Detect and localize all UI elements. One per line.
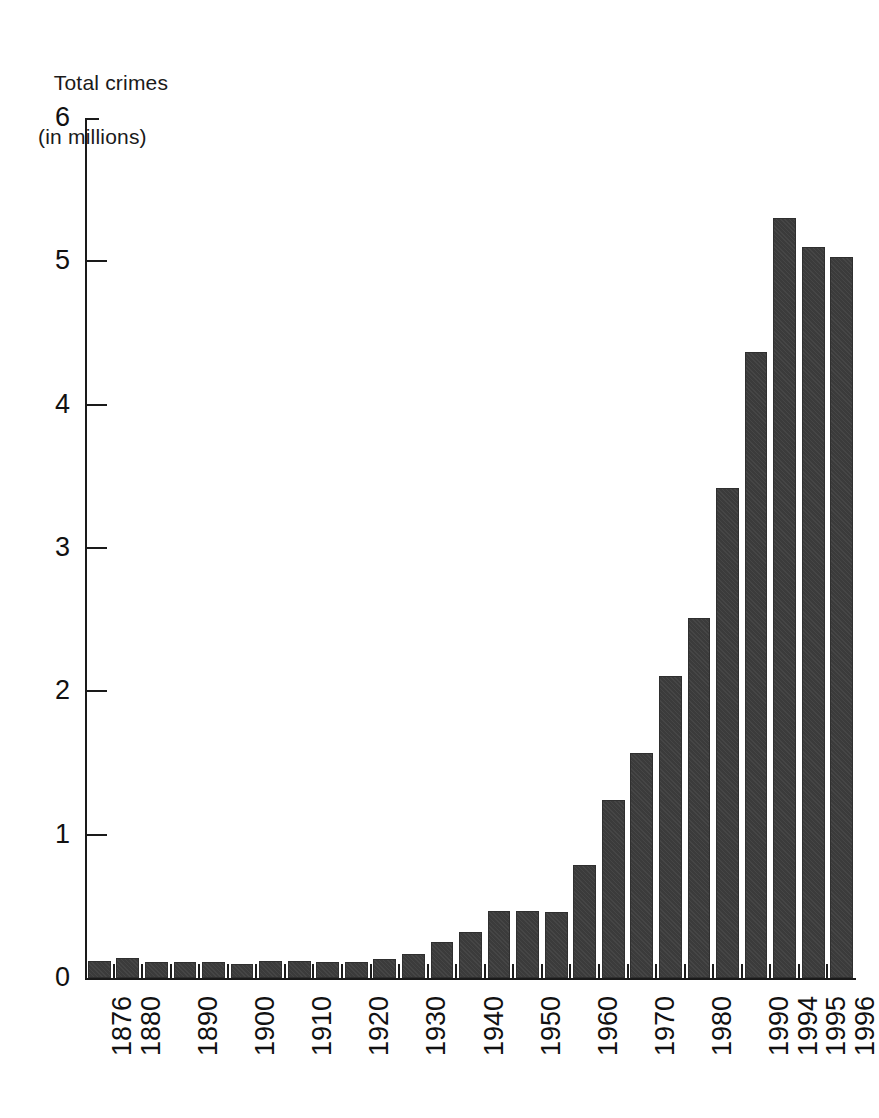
y-axis-tick-label: 3 bbox=[0, 534, 70, 561]
bar[interactable] bbox=[830, 257, 853, 978]
bar[interactable] bbox=[545, 912, 568, 978]
y-axis-tick-label: 5 bbox=[0, 247, 70, 274]
bar[interactable] bbox=[745, 352, 768, 978]
x-axis-tick-label: 1980 bbox=[709, 996, 736, 1056]
y-axis-tick-label: 1 bbox=[0, 821, 70, 848]
bar[interactable] bbox=[802, 247, 825, 978]
x-axis-tick-label: 1960 bbox=[595, 996, 622, 1056]
bar[interactable] bbox=[459, 932, 482, 978]
x-axis-tick-label: 1890 bbox=[195, 996, 222, 1056]
bar[interactable] bbox=[516, 911, 539, 978]
bar[interactable] bbox=[88, 961, 111, 978]
bar[interactable] bbox=[316, 962, 339, 978]
bar[interactable] bbox=[202, 962, 225, 978]
x-axis-tick-label: 1995 bbox=[823, 996, 850, 1056]
x-axis-tick-label: 1900 bbox=[252, 996, 279, 1056]
bar[interactable] bbox=[174, 962, 197, 978]
y-axis-tick-label: 4 bbox=[0, 391, 70, 418]
x-axis-tick-label: 1930 bbox=[423, 996, 450, 1056]
x-axis-tick-label: 1876 bbox=[109, 996, 136, 1056]
x-axis-tick-label: 1994 bbox=[795, 996, 822, 1056]
x-axis-tick-label: 1970 bbox=[652, 996, 679, 1056]
bar[interactable] bbox=[630, 753, 653, 978]
x-axis-tick-label: 1940 bbox=[481, 996, 508, 1056]
bar[interactable] bbox=[431, 942, 454, 978]
y-axis-tick-label: 2 bbox=[0, 677, 70, 704]
y-axis-title-line-1: Total crimes bbox=[54, 71, 168, 94]
y-axis-tick-label: 6 bbox=[0, 104, 70, 131]
bar[interactable] bbox=[659, 676, 682, 978]
bar[interactable] bbox=[573, 865, 596, 978]
bar[interactable] bbox=[402, 954, 425, 978]
bar[interactable] bbox=[602, 800, 625, 978]
x-axis-tick-label: 1920 bbox=[366, 996, 393, 1056]
bar[interactable] bbox=[716, 488, 739, 978]
x-axis-tick-label: 1990 bbox=[766, 996, 793, 1056]
bar[interactable] bbox=[488, 911, 511, 978]
bar[interactable] bbox=[231, 964, 254, 978]
x-axis-tick-label: 1910 bbox=[309, 996, 336, 1056]
x-axis-tick-label: 1880 bbox=[138, 996, 165, 1056]
plot-area bbox=[85, 118, 856, 978]
bar[interactable] bbox=[116, 958, 139, 978]
y-axis-tick-label: 0 bbox=[0, 964, 70, 991]
bar[interactable] bbox=[259, 961, 282, 978]
bar[interactable] bbox=[345, 962, 368, 978]
bar[interactable] bbox=[688, 618, 711, 978]
bar[interactable] bbox=[288, 961, 311, 978]
bar[interactable] bbox=[373, 959, 396, 978]
bar[interactable] bbox=[145, 962, 168, 978]
x-axis-tick-label: 1950 bbox=[538, 996, 565, 1056]
x-axis-tick-label: 1996 bbox=[852, 996, 879, 1056]
bar[interactable] bbox=[773, 218, 796, 978]
